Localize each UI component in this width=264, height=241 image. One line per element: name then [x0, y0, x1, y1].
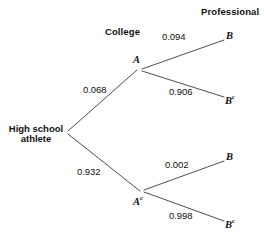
probability-a-to-bc: 0.906 [169, 87, 193, 97]
leaf-label-bc-upper: Bc [225, 93, 235, 106]
column-header-college: College [105, 27, 140, 37]
node-label-a: A [133, 54, 140, 66]
probability-ac-to-b: 0.002 [165, 160, 189, 170]
probability-ac-to-bc: 0.998 [169, 211, 193, 221]
node-ac-base: A [133, 196, 140, 207]
leaf-label-b-upper: B [226, 30, 233, 42]
branch-root-to-ac [68, 134, 140, 191]
branch-a-to-b [142, 40, 224, 69]
leaf-label-b-lower: B [226, 151, 233, 163]
leaf-b-lower-base: B [226, 151, 233, 162]
probability-a-to-b: 0.094 [162, 32, 186, 42]
leaf-bc-lower-superscript: c [232, 217, 235, 224]
node-label-a-complement: Ac [133, 194, 143, 207]
probability-root-to-ac: 0.932 [77, 167, 101, 177]
leaf-bc-upper-superscript: c [232, 93, 235, 100]
node-ac-superscript: c [140, 194, 143, 201]
probability-tree-diagram: College Professional High school athlete… [0, 0, 264, 241]
leaf-label-bc-lower: Bc [225, 217, 235, 230]
root-node-label-line2: athlete [8, 134, 64, 144]
leaf-b-upper-base: B [226, 30, 233, 41]
branch-root-to-a [68, 70, 137, 131]
leaf-bc-lower-base: B [225, 219, 232, 230]
node-a-base: A [133, 54, 140, 65]
root-node-label: High school athlete [8, 124, 64, 145]
leaf-bc-upper-base: B [225, 95, 232, 106]
probability-root-to-a: 0.068 [83, 85, 107, 95]
column-header-professional: Professional [201, 7, 259, 17]
